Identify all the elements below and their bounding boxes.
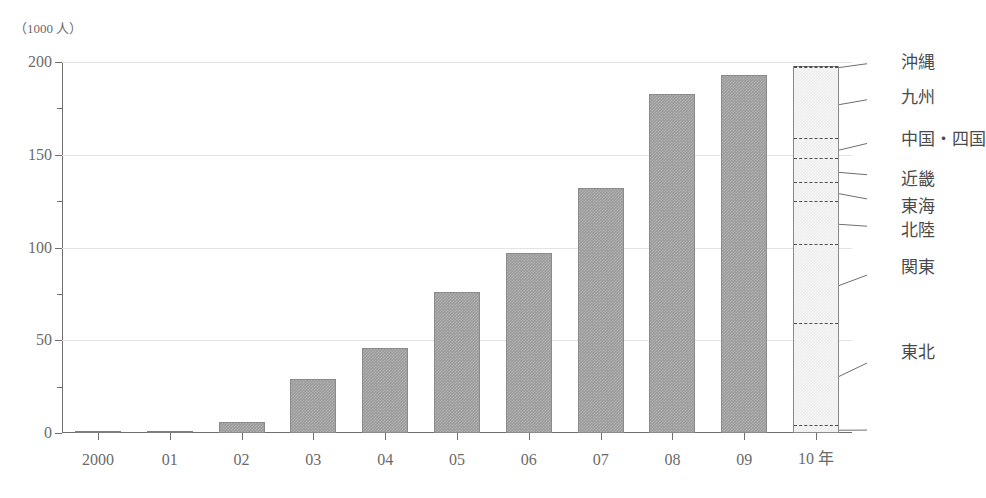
x-tick-label: 05 [449, 451, 465, 469]
x-tick-label: 06 [521, 451, 537, 469]
bar [721, 75, 767, 433]
bar [219, 422, 265, 433]
bar [649, 94, 695, 433]
stack-segment-divider [794, 244, 838, 245]
bar [290, 379, 336, 433]
stack-segment-divider [794, 67, 838, 68]
cut-off-title-sliver [160, 0, 630, 6]
y-tick-minor [57, 294, 62, 295]
x-tick [457, 433, 458, 440]
x-tick-label: 09 [736, 451, 752, 469]
x-tick [601, 433, 602, 440]
y-tick-label: 0 [44, 424, 52, 442]
x-tick-label: 04 [377, 451, 393, 469]
legend-label-6: 関東 [901, 253, 935, 278]
legend-label-1: 九州 [901, 83, 935, 108]
plot-area: 050100150200 200001020304050607080910 年 [62, 62, 852, 433]
stack-segment-divider [794, 66, 838, 67]
stack-segment-divider [794, 201, 838, 202]
x-tick [313, 433, 314, 440]
x-tick [529, 433, 530, 440]
x-tick [672, 433, 673, 440]
x-tick [744, 433, 745, 440]
y-tick-label: 150 [28, 146, 52, 164]
x-tick-label: 02 [234, 451, 250, 469]
legend-label-7: 東北 [901, 338, 935, 363]
y-tick-minor [57, 387, 62, 388]
y-tick-minor [57, 201, 62, 202]
x-tick [98, 433, 99, 440]
x-tick [170, 433, 171, 440]
stack-segment-divider [794, 425, 838, 426]
y-tick-major [55, 340, 62, 341]
stacked-bar [793, 66, 839, 433]
y-tick-major [55, 433, 62, 434]
bar [362, 348, 408, 433]
x-tick-label: 08 [664, 451, 680, 469]
y-tick-major [55, 248, 62, 249]
y-tick-label: 200 [28, 53, 52, 71]
y-tick-label: 100 [28, 239, 52, 257]
x-tick [385, 433, 386, 440]
y-tick-major [55, 62, 62, 63]
x-tick-label: 03 [305, 451, 321, 469]
y-tick-major [55, 155, 62, 156]
legend-label-2: 中国・四国 [901, 125, 986, 150]
bar [434, 292, 480, 433]
x-tick-label: 07 [593, 451, 609, 469]
y-tick-minor [57, 108, 62, 109]
stack-segment-divider [794, 323, 838, 324]
y-tick-label: 50 [36, 331, 52, 349]
stack-segment-divider [794, 182, 838, 183]
x-tick [816, 433, 817, 440]
legend-label-5: 北陸 [901, 216, 935, 241]
bar [578, 188, 624, 433]
legend-label-0: 沖縄 [901, 48, 935, 73]
x-tick-label: 01 [162, 451, 178, 469]
legend-label-4: 東海 [901, 192, 935, 217]
x-tick-label: 10 年 [798, 445, 834, 469]
stack-segment-divider [794, 158, 838, 159]
stack-segment-divider [794, 138, 838, 139]
y-axis-unit-label: （1000 人） [14, 18, 82, 37]
x-tick [242, 433, 243, 440]
legend-label-3: 近畿 [901, 165, 935, 190]
bar [506, 253, 552, 433]
gridline [62, 62, 852, 63]
x-tick-label: 2000 [82, 451, 114, 469]
